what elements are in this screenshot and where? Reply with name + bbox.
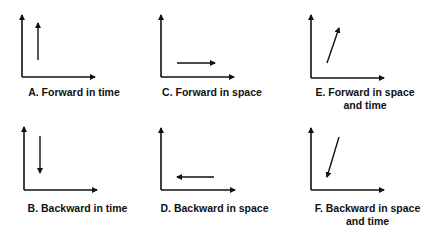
- panel-b-label: B. Backward in time: [15, 202, 140, 215]
- panel-c-label-line-1: C. Forward in space: [162, 86, 262, 98]
- panel-a-label: A. Forward in time: [14, 86, 134, 99]
- panel-f-label-line-2: and time: [300, 215, 435, 228]
- panel-a-label-line-1: A. Forward in time: [28, 86, 120, 98]
- panel-f-label-line-1: F. Backward in space: [300, 202, 435, 215]
- panel-c-label: C. Forward in space: [152, 86, 272, 99]
- panel-d-label-line-1: D. Backward in space: [161, 202, 269, 214]
- panel-a-graph: [22, 15, 95, 77]
- panel-d-label: D. Backward in space: [152, 202, 277, 215]
- panel-e-arrow-up-right: [327, 28, 339, 63]
- panel-f-label: F. Backward in space and time: [300, 202, 435, 228]
- panel-e-graph: [311, 15, 384, 78]
- panel-e-label-line-2: and time: [300, 99, 430, 112]
- panel-d-graph: [161, 128, 235, 190]
- panel-c-graph: [161, 15, 234, 77]
- panel-f-arrow-down-left: [327, 137, 339, 177]
- panel-b-graph: [24, 127, 97, 190]
- panel-e-label: E. Forward in space and time: [300, 86, 430, 112]
- panel-e-label-line-1: E. Forward in space: [300, 86, 430, 99]
- panel-b-label-line-1: B. Backward in time: [28, 202, 128, 214]
- panel-f-graph: [311, 128, 384, 190]
